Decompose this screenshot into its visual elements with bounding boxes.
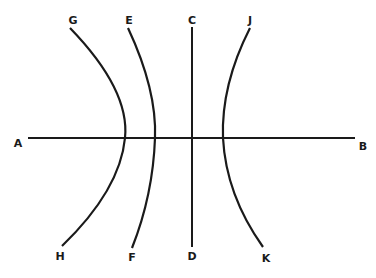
label-k: K: [262, 253, 271, 264]
diagram-canvas: [0, 0, 376, 278]
label-c: C: [188, 15, 196, 26]
label-d: D: [187, 251, 196, 262]
label-h: H: [55, 251, 64, 262]
label-a: A: [14, 138, 23, 149]
label-e: E: [125, 15, 133, 26]
line-curvature-diagram: A B C D E F G H J K: [0, 0, 376, 278]
label-g: G: [68, 15, 77, 26]
label-b: B: [359, 141, 367, 152]
label-f: F: [128, 252, 136, 263]
label-j: J: [248, 15, 252, 26]
